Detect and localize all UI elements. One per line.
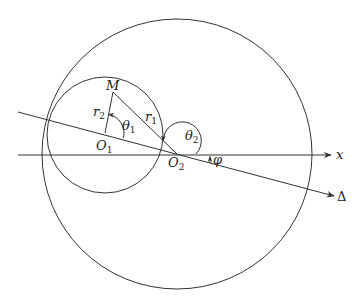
label-r1: r1 <box>145 109 157 126</box>
segment-r2 <box>105 92 113 133</box>
label-delta: Δ <box>337 189 346 204</box>
label-x: x <box>336 147 344 162</box>
label-r2: r2 <box>93 104 105 121</box>
delta-line <box>18 112 334 196</box>
label-phi: φ <box>213 152 223 167</box>
label-O1: O1 <box>96 138 112 155</box>
label-theta1: θ1 <box>122 118 136 135</box>
label-theta2: θ2 <box>185 128 199 145</box>
label-M: M <box>105 78 120 93</box>
label-O2: O2 <box>168 155 184 172</box>
geometry-diagram: M r2 r1 θ1 O1 θ2 O2 φ x Δ <box>0 0 363 304</box>
